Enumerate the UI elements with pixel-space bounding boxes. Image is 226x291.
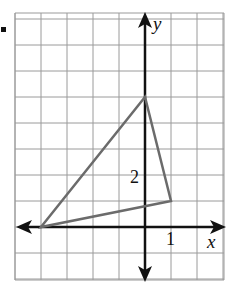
y-tick-label-2: 2	[130, 167, 139, 187]
x-axis	[16, 220, 226, 234]
coordinate-plane: y x 2 1	[0, 0, 226, 291]
y-axis	[138, 12, 152, 282]
x-tick-label-1: 1	[166, 229, 175, 249]
triangle	[41, 97, 171, 227]
x-axis-label: x	[206, 231, 216, 252]
grid	[15, 13, 224, 280]
y-axis-label: y	[151, 13, 162, 34]
